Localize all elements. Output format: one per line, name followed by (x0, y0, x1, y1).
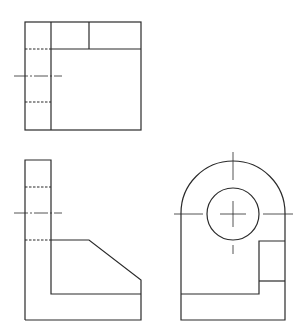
side-view (14, 160, 141, 320)
top-view (14, 22, 141, 130)
front-view (174, 152, 293, 320)
technical-drawing (0, 0, 301, 325)
